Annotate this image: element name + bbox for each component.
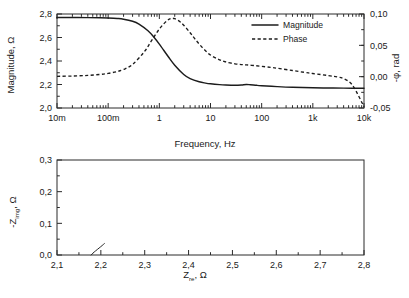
nyquist-frame-rect bbox=[57, 160, 364, 255]
phase-curve bbox=[57, 18, 364, 107]
nyquist-xtick-label: 2,3 bbox=[138, 260, 151, 270]
bode-xtick-label: 10m bbox=[48, 113, 66, 123]
bode-yaxis-left-title: Magnitude, Ω bbox=[5, 37, 16, 94]
bode-xaxis-title: Frequency, Hz bbox=[174, 138, 235, 149]
bode-ytick-left-label: 2,8 bbox=[39, 9, 52, 19]
bode-xtick-label: 10k bbox=[357, 113, 372, 123]
bode-plot: 10m100m1101001k10k2,02,22,42,62,8-0,050,… bbox=[0, 0, 409, 150]
nyquist-xtick-label: 2,7 bbox=[314, 260, 327, 270]
nyquist-xtick-label: 2,5 bbox=[226, 260, 239, 270]
bode-legend: Magnitude Phase bbox=[252, 20, 323, 44]
figure-container: 10m100m1101001k10k2,02,22,42,62,8-0,050,… bbox=[0, 0, 409, 298]
nyquist-xtick-label: 2,1 bbox=[51, 260, 64, 270]
bode-xtick-label: 10 bbox=[205, 113, 215, 123]
nyquist-plot-frame bbox=[57, 160, 364, 255]
bode-xtick-label: 1 bbox=[157, 113, 162, 123]
nyquist-axis-ticks bbox=[57, 160, 364, 255]
bode-tick-labels: 10m100m1101001k10k2,02,22,42,62,8-0,050,… bbox=[39, 9, 390, 123]
bode-ytick-left-label: 2,0 bbox=[39, 103, 52, 113]
nyquist-xaxis-unit: , Ω bbox=[194, 269, 206, 280]
nyquist-yaxis-symbol: -Z bbox=[7, 219, 18, 228]
nyquist-xaxis-title: Zre, Ω bbox=[183, 269, 207, 282]
legend-label-phase: Phase bbox=[283, 34, 308, 44]
bode-ytick-left-label: 2,6 bbox=[39, 33, 52, 43]
svg-text:-Zimg, Ω: -Zimg, Ω bbox=[7, 196, 20, 227]
bode-ytick-right-label: 0,05 bbox=[370, 41, 388, 51]
nyquist-yaxis-unit: , Ω bbox=[7, 196, 18, 208]
bode-xtick-label: 100m bbox=[97, 113, 120, 123]
bode-ytick-left-label: 2,4 bbox=[39, 56, 52, 66]
nyquist-xtick-label: 2,8 bbox=[358, 260, 371, 270]
legend-label-magnitude: Magnitude bbox=[283, 20, 323, 30]
bode-xtick-label: 100 bbox=[254, 113, 269, 123]
bode-xtick-label: 1k bbox=[308, 113, 318, 123]
nyquist-yaxis-subscript: img bbox=[13, 208, 20, 219]
impedance-locus-curve bbox=[91, 244, 104, 255]
nyquist-plot: 2,12,22,32,42,52,62,72,80,00,10,20,3 Zre… bbox=[0, 150, 409, 298]
nyquist-yaxis-title: -Zimg, Ω bbox=[7, 196, 20, 227]
nyquist-xtick-label: 2,6 bbox=[270, 260, 283, 270]
nyquist-xtick-label: 2,2 bbox=[95, 260, 108, 270]
bode-ytick-left-label: 2,2 bbox=[39, 80, 52, 90]
bode-yaxis-right-title: -φ, rad bbox=[390, 54, 401, 82]
bode-ytick-right-label: 0,10 bbox=[370, 9, 388, 19]
nyquist-ytick-label: 0,2 bbox=[39, 187, 52, 197]
nyquist-ytick-label: 0,1 bbox=[39, 219, 52, 229]
bode-ytick-right-label: -0,05 bbox=[370, 103, 391, 113]
nyquist-ytick-label: 0,3 bbox=[39, 155, 52, 165]
bode-ytick-right-label: 0,00 bbox=[370, 72, 388, 82]
nyquist-ytick-label: 0,0 bbox=[39, 250, 52, 260]
svg-text:Zre, Ω: Zre, Ω bbox=[183, 269, 207, 282]
